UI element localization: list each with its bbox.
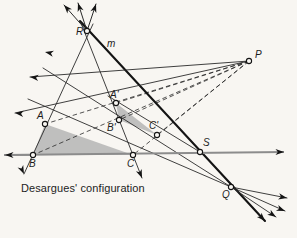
- point-marker-P: [246, 58, 251, 63]
- point-label-C: C: [127, 159, 134, 169]
- point-markers: [30, 28, 251, 189]
- point-marker-R: [84, 28, 89, 33]
- line-P-A-left-ray: [15, 61, 249, 113]
- arrow-right-from-Q-3: [267, 210, 278, 220]
- arrow-down-from-C: [136, 169, 145, 179]
- point-marker-A-prime: [113, 100, 118, 105]
- point-label-R: R: [76, 27, 83, 37]
- arrow-right-from-Q-2: [276, 205, 286, 214]
- point-marker-B: [30, 152, 35, 157]
- point-label-A-prime: A': [110, 90, 119, 100]
- point-label-B: B: [29, 159, 36, 169]
- point-label-C-prime: C': [149, 121, 158, 131]
- point-marker-C-prime: [154, 132, 159, 137]
- point-label-B-prime: B': [107, 123, 116, 133]
- point-marker-C: [130, 152, 135, 157]
- dash-P-Bp: [119, 61, 249, 120]
- arrow-up-left-lower: [30, 74, 39, 81]
- point-label-A: A: [37, 111, 44, 121]
- dash-P-Cp: [157, 61, 249, 135]
- desargues-configuration-svg: [0, 0, 297, 238]
- arrow-up-left-upper: [44, 49, 54, 57]
- triangle-ABC: [33, 124, 133, 155]
- line-Q-right-ray-2: [231, 187, 285, 211]
- figure-caption: Desargues' configuration: [21, 182, 145, 194]
- point-marker-A: [42, 121, 47, 126]
- point-marker-S: [197, 149, 202, 154]
- arrow-up-from-R: [75, 2, 84, 12]
- point-label-S: S: [203, 138, 210, 148]
- point-label-P: P: [255, 50, 262, 60]
- arrow-up-right-from-R: [90, 3, 99, 13]
- point-label-Q: Q: [222, 190, 230, 200]
- diagram-page: R A B C A' B' C' P Q S m Desargues' conf…: [0, 0, 297, 238]
- arrow-right-from-Q-1: [278, 193, 288, 201]
- point-marker-B-prime: [116, 117, 121, 122]
- line-label-m: m: [107, 39, 115, 49]
- line-P-Ap-left-ray: [30, 61, 249, 77]
